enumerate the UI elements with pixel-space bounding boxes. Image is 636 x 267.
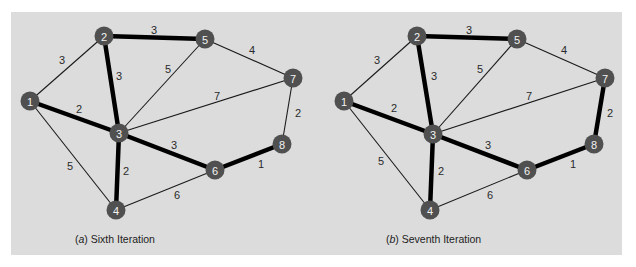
node-2: 2 <box>408 27 427 46</box>
edge-6-8-selected <box>215 144 282 170</box>
edge-3-7 <box>433 78 605 134</box>
node-6: 6 <box>518 161 537 180</box>
edge-weight-5-7: 4 <box>249 44 255 56</box>
edge-7-8-selected <box>594 78 605 144</box>
node-label: 4 <box>427 205 433 217</box>
caption-label: Sixth Iteration <box>88 233 155 245</box>
caption-letter: b <box>390 233 396 245</box>
node-label: 8 <box>279 139 285 151</box>
edge-weight-5-7: 4 <box>561 44 567 56</box>
edge-weight-4-6: 6 <box>487 189 493 201</box>
edge-weight-3-6: 3 <box>485 139 491 151</box>
caption-sixth-iteration: (a) Sixth Iteration <box>75 233 155 245</box>
node-label: 7 <box>602 73 608 85</box>
node-8: 8 <box>273 135 292 154</box>
edge-1-2 <box>30 36 104 101</box>
node-label: 6 <box>524 165 530 177</box>
edge-3-6-selected <box>119 133 215 170</box>
node-7: 7 <box>596 69 615 88</box>
node-label: 3 <box>116 128 122 140</box>
node-8: 8 <box>585 135 604 154</box>
edge-3-4-selected <box>116 133 119 210</box>
edge-weight-2-3: 3 <box>431 70 437 82</box>
node-2: 2 <box>95 27 114 46</box>
node-7: 7 <box>284 69 303 88</box>
node-label: 2 <box>101 31 107 43</box>
node-5: 5 <box>508 30 527 49</box>
node-label: 1 <box>341 96 347 108</box>
edge-weight-4-6: 6 <box>174 189 180 201</box>
node-label: 5 <box>514 34 520 46</box>
node-3: 3 <box>110 124 129 143</box>
edge-2-5-selected <box>104 36 205 39</box>
edge-weight-3-7: 7 <box>526 90 532 102</box>
edge-1-3-selected <box>30 101 119 133</box>
node-label: 6 <box>212 165 218 177</box>
node-label: 3 <box>430 129 436 141</box>
caption-seventh-iteration: (b) Seventh Iteration <box>386 233 481 245</box>
edge-4-6 <box>116 170 215 210</box>
panel-b-seventh-iteration: 325335473261212345678 <box>335 24 615 220</box>
edge-weight-6-8: 1 <box>570 158 576 170</box>
node-5: 5 <box>196 30 215 49</box>
node-label: 4 <box>113 205 119 217</box>
edge-6-8-selected <box>527 144 594 170</box>
node-label: 5 <box>202 34 208 46</box>
panel-a-sixth-iteration: 325335473261212345678 <box>21 24 303 220</box>
caption-label: Seventh Iteration <box>399 233 481 245</box>
edge-3-4-selected <box>430 134 433 210</box>
node-4: 4 <box>421 201 440 220</box>
node-1: 1 <box>335 92 354 111</box>
node-1: 1 <box>21 92 40 111</box>
mst-graph-diagram: 325335473261212345678 325335473261212345… <box>0 0 636 267</box>
edge-weight-3-5: 5 <box>165 63 171 75</box>
edge-weight-3-6: 3 <box>171 139 177 151</box>
edge-weight-1-3: 2 <box>76 103 82 115</box>
edge-weight-1-3: 2 <box>391 102 397 114</box>
edge-1-2 <box>344 36 417 101</box>
node-label: 2 <box>414 31 420 43</box>
edge-weight-6-8: 1 <box>258 158 264 170</box>
edge-3-6-selected <box>433 134 527 170</box>
caption-letter: a <box>79 233 85 245</box>
edge-weight-3-4: 2 <box>438 165 444 177</box>
edge-weight-3-7: 7 <box>214 90 220 102</box>
edge-2-3-selected <box>417 36 433 134</box>
edge-weight-1-2: 3 <box>374 54 380 66</box>
edge-weight-1-4: 5 <box>378 155 384 167</box>
edge-weight-3-4: 2 <box>123 165 129 177</box>
node-4: 4 <box>107 201 126 220</box>
edge-weight-1-2: 3 <box>59 54 65 66</box>
edge-weight-7-8: 2 <box>295 107 301 119</box>
edge-weight-2-3: 3 <box>116 70 122 82</box>
edge-weight-2-5: 3 <box>466 24 472 36</box>
edge-7-8 <box>282 78 293 144</box>
node-6: 6 <box>206 161 225 180</box>
edge-2-5-selected <box>417 36 517 39</box>
node-label: 1 <box>27 96 33 108</box>
node-label: 7 <box>290 73 296 85</box>
edge-weight-7-8: 2 <box>607 107 613 119</box>
edge-2-3-selected <box>104 36 119 133</box>
edge-weight-3-5: 5 <box>477 63 483 75</box>
edge-weight-1-4: 5 <box>67 160 73 172</box>
edge-weight-2-5: 3 <box>151 24 157 36</box>
node-label: 8 <box>591 139 597 151</box>
edge-3-7 <box>119 78 293 133</box>
edge-4-6 <box>430 170 527 210</box>
node-3: 3 <box>424 125 443 144</box>
